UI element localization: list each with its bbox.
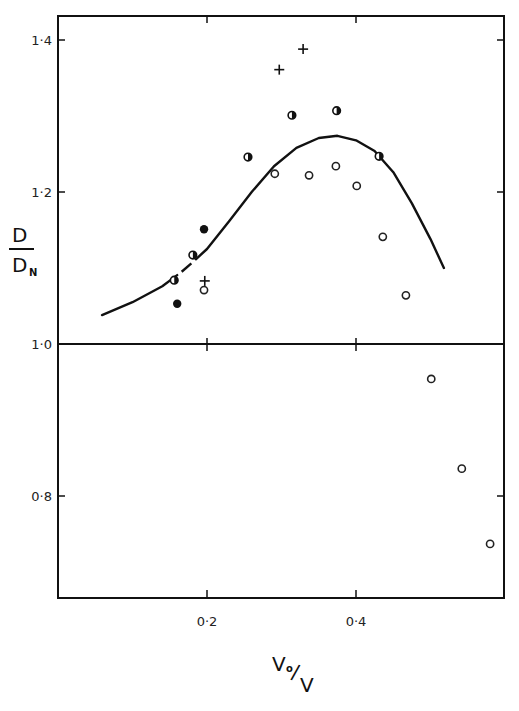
half-filled-circle-marker	[189, 251, 197, 259]
open-circle-marker	[428, 375, 435, 382]
y-tick-label: 1·2	[31, 185, 52, 200]
x-axis-label: V o / V	[272, 652, 314, 697]
data-points	[170, 44, 493, 547]
x-tick-label: 0·4	[346, 614, 367, 629]
x-label-denominator: V	[300, 673, 314, 697]
plus-marker	[274, 65, 284, 75]
y-axis-ticks: 0·81·01·21·4	[31, 33, 504, 504]
y-tick-label: 1·0	[31, 337, 52, 352]
fit-curve-segment	[102, 275, 177, 315]
open-circle-marker	[353, 182, 360, 189]
plot-frame	[58, 16, 504, 598]
open-circle-marker	[458, 465, 465, 472]
half-filled-circle-marker	[170, 276, 178, 284]
half-filled-circle-marker	[288, 111, 296, 119]
open-circle-marker	[200, 286, 207, 293]
x-axis-ticks: 0·20·4	[197, 16, 367, 629]
y-label-denominator: D	[12, 253, 27, 277]
y-axis-label: D D N	[9, 223, 37, 278]
open-circle-marker	[487, 540, 494, 547]
filled-circle-marker	[200, 225, 208, 233]
open-circle-marker	[271, 170, 278, 177]
half-filled-circle-marker	[333, 107, 341, 115]
filled-circle-marker	[173, 300, 181, 308]
open-circle-marker	[305, 172, 312, 179]
fit-curve-segment	[196, 136, 444, 268]
x-label-main: V	[272, 652, 286, 676]
plus-marker	[298, 44, 308, 54]
open-circle-marker	[379, 233, 386, 240]
y-tick-label: 1·4	[31, 33, 52, 48]
y-label-numerator: D	[12, 223, 27, 247]
y-label-subscript: N	[29, 267, 37, 278]
x-tick-label: 0·2	[197, 614, 218, 629]
fit-curve-dash	[182, 263, 192, 271]
fit-curve	[102, 136, 444, 315]
half-filled-circle-marker	[244, 153, 252, 161]
plus-marker	[200, 276, 210, 286]
y-tick-label: 0·8	[31, 489, 52, 504]
open-circle-marker	[332, 163, 339, 170]
half-filled-circle-marker	[375, 152, 383, 160]
open-circle-marker	[402, 292, 409, 299]
scatter-chart: 0·81·01·21·4 0·20·4 D D N V o / V	[0, 0, 519, 711]
plot-border	[58, 16, 504, 598]
